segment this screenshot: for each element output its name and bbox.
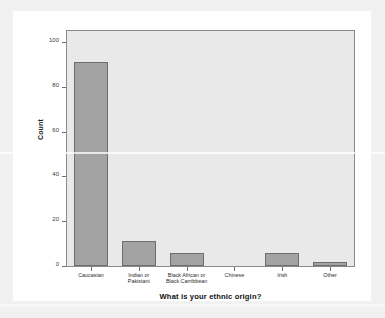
bar[interactable] xyxy=(313,262,347,266)
y-axis-tick-mark xyxy=(62,87,66,88)
y-axis-tick-mark xyxy=(62,221,66,222)
x-axis-tick-mark xyxy=(139,267,140,271)
y-axis-tick-mark xyxy=(62,132,66,133)
y-axis-tick-label: 0 xyxy=(56,261,59,267)
x-axis-tick-mark xyxy=(91,267,92,271)
x-axis-tick-label: Other xyxy=(292,272,368,278)
bar-slot xyxy=(211,31,259,266)
bar-chart: Count 020406080100 CaucasianIndian or Pa… xyxy=(13,11,371,301)
y-axis-tick-mark xyxy=(62,176,66,177)
bar[interactable] xyxy=(74,62,108,266)
y-axis-tick-mark xyxy=(62,266,66,267)
bars-layer xyxy=(67,31,354,266)
bar[interactable] xyxy=(170,253,204,266)
x-axis-title: What is your ethnic origin? xyxy=(66,292,355,301)
y-axis-tick-mark xyxy=(62,42,66,43)
bar[interactable] xyxy=(122,241,156,266)
y-axis-tick-label: 20 xyxy=(52,216,59,222)
y-axis-tick-label: 40 xyxy=(52,171,59,177)
y-axis-title: Count xyxy=(37,100,44,160)
figure-card: Count 020406080100 CaucasianIndian or Pa… xyxy=(13,11,371,301)
bar-slot xyxy=(67,31,115,266)
bar-slot xyxy=(115,31,163,266)
bar-slot xyxy=(306,31,354,266)
x-axis-tick-mark xyxy=(187,267,188,271)
x-axis-tick-mark xyxy=(330,267,331,271)
y-axis-tick-label: 80 xyxy=(52,82,59,88)
x-axis-tick-mark xyxy=(282,267,283,271)
y-axis-tick-label: 60 xyxy=(52,127,59,133)
x-axis-tick-mark xyxy=(234,267,235,271)
y-axis-tick-label: 100 xyxy=(49,37,59,43)
bar-slot xyxy=(163,31,211,266)
bar-slot xyxy=(258,31,306,266)
scanline-artifact-lower xyxy=(0,304,385,307)
bar[interactable] xyxy=(265,253,299,266)
